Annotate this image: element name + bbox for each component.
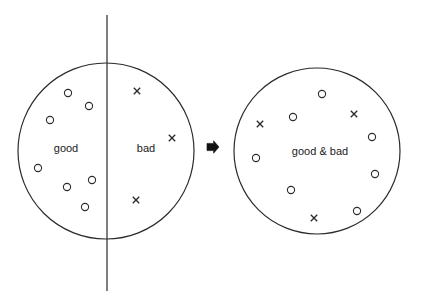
left-bad-marker-2 — [133, 197, 139, 203]
right-good-marker-0 — [318, 90, 325, 97]
left-good-marker-5 — [63, 183, 70, 190]
right-good-marker-6 — [353, 207, 360, 214]
right-bad-marker-0 — [257, 121, 263, 127]
left-bad-marker-1 — [169, 135, 175, 141]
right-good-marker-4 — [371, 170, 378, 177]
left-good-marker-0 — [64, 89, 71, 96]
right-good-marker-5 — [287, 186, 294, 193]
left-good-marker-6 — [81, 203, 88, 210]
left-set-boundary-circle — [18, 63, 194, 239]
left-good-marker-2 — [46, 116, 53, 123]
right-good-marker-2 — [368, 133, 375, 140]
right-good-marker-1 — [289, 113, 296, 120]
left-bad-marker-0 — [134, 88, 140, 94]
right-bad-marker-2 — [311, 215, 317, 221]
good-and-bad-label: good & bad — [292, 145, 348, 157]
left-good-marker-3 — [34, 164, 41, 171]
left-good-marker-1 — [85, 102, 92, 109]
right-bad-marker-1 — [351, 111, 357, 117]
right-good-marker-3 — [252, 154, 259, 161]
diagram-canvas: goodbadgood & bad — [0, 0, 426, 300]
good-label: good — [54, 142, 78, 154]
left-good-marker-4 — [88, 176, 95, 183]
transform-arrow-icon — [207, 141, 219, 153]
bad-label: bad — [137, 142, 155, 154]
